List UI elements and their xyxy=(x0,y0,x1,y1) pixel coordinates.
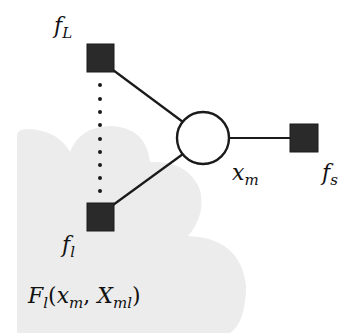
label-factor-top: fL xyxy=(52,13,72,42)
factor-graph-diagram: fL fl xm fs Fl(xm, Xml) xyxy=(0,0,355,333)
factor-node-top xyxy=(87,44,114,72)
edge-top-factor-to-variable xyxy=(113,70,183,122)
factor-node-right xyxy=(290,124,318,152)
factor-node-bottom xyxy=(87,203,114,231)
variable-node xyxy=(177,112,229,164)
label-factor-right: fs xyxy=(320,160,338,189)
label-variable: xm xyxy=(232,160,259,189)
